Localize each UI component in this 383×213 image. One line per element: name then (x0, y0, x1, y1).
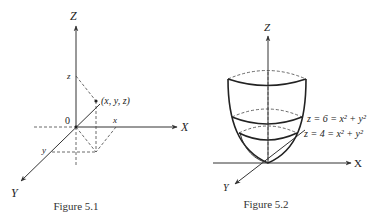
x-axis-label: X (354, 157, 362, 169)
z-axis-label: Z (70, 9, 77, 23)
origin-point (75, 126, 78, 129)
x-projection-line (96, 127, 116, 152)
z-projection-line (76, 76, 96, 101)
y-axis (21, 104, 100, 181)
figure-5-2-caption: Figure 5.2 (243, 198, 288, 210)
level-6-back (232, 109, 302, 117)
figures-canvas: Z X Y 0 z x y (x, y, z) Figure 5.1 (0, 0, 383, 213)
paraboloid-inner-curve (240, 133, 268, 163)
level-6-label: z = 6 = x² + y² (306, 113, 367, 124)
diagonal-projection-line (76, 127, 96, 152)
top-rim-front (228, 79, 306, 86)
top-rim-back (228, 71, 306, 80)
x-axis-label: X (180, 120, 189, 134)
figure-5-2: Z X Y z = 6 = x² + y² z = 4 = x² + y² Fi… (213, 21, 367, 210)
y-axis-label: Y (11, 186, 19, 200)
level-4-label: z = 4 = x² + y² (303, 128, 364, 139)
level-6-front (232, 117, 302, 124)
z-tick-label: z (66, 71, 71, 81)
point-xyz (94, 99, 97, 102)
figure-5-1: Z X Y 0 z x y (x, y, z) Figure 5.1 (11, 9, 189, 212)
y-axis-label: Y (223, 182, 230, 193)
x-tick-label: x (112, 115, 117, 125)
point-label: (x, y, z) (101, 95, 131, 107)
y-tick-label: y (41, 145, 46, 155)
z-axis-label: Z (264, 21, 271, 33)
origin-label: 0 (65, 115, 70, 126)
figure-5-1-caption: Figure 5.1 (53, 200, 98, 212)
